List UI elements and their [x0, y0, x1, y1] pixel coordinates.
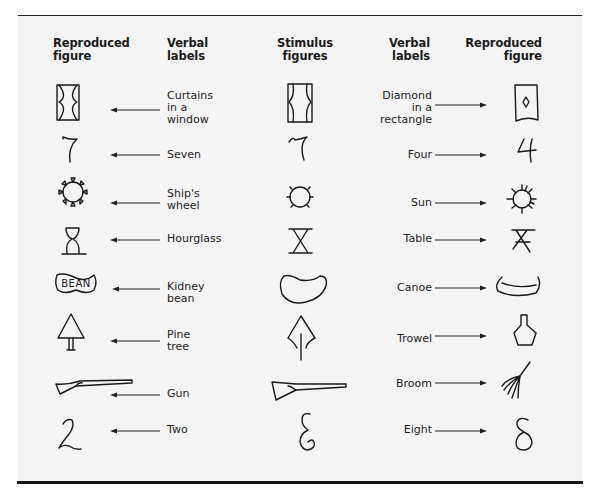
figure-seven: [60, 135, 82, 165]
figure-broom: [498, 360, 534, 404]
label-ships-wheel: Ship's wheel: [167, 188, 200, 212]
top-rule: [18, 15, 582, 16]
arrow-right-icon: [435, 200, 487, 206]
arrow-right-icon: [435, 102, 487, 108]
arrow-right-icon: [435, 285, 487, 291]
label-line: Eight: [370, 424, 432, 436]
label-pine-tree: Pine tree: [167, 329, 190, 353]
arrow-left-icon: [110, 338, 162, 344]
label-gun: Gun: [167, 388, 189, 400]
bean-text: BEAN: [61, 278, 91, 289]
header-left-verbal: Verbal labels: [167, 37, 208, 63]
header-left-reproduced: Reproduced figure: [53, 37, 130, 63]
label-line: Two: [167, 424, 188, 436]
label-diamond-in-rectangle: Diamond in a rectangle: [370, 90, 432, 126]
stimulus-figure-1: [286, 82, 316, 122]
label-canoe: Canoe: [370, 282, 432, 294]
label-table: Table: [370, 233, 432, 245]
header-line: figures: [274, 50, 336, 63]
arrow-right-icon: [435, 333, 487, 339]
stimulus-figure-2: [287, 134, 311, 164]
label-line: Table: [370, 233, 432, 245]
header-line: figure: [53, 50, 130, 63]
figure-two: [57, 416, 83, 452]
label-line: Canoe: [370, 282, 432, 294]
figure-ships-wheel: [55, 174, 91, 210]
label-line: Trowel: [370, 333, 432, 345]
stimulus-figure-3: [285, 182, 315, 212]
header-line: figure: [460, 50, 542, 63]
header-line: labels: [167, 50, 208, 63]
header-right-reproduced: Reproduced figure: [460, 37, 542, 63]
label-trowel: Trowel: [370, 333, 432, 345]
arrow-left-icon: [110, 392, 162, 398]
figure-table: [510, 228, 538, 256]
figure-kidney-bean: BEAN: [52, 270, 100, 298]
label-line: Gun: [167, 388, 189, 400]
label-sun: Sun: [370, 197, 432, 209]
arrow-left-icon: [110, 237, 162, 243]
stimulus-figure-8: [296, 410, 320, 452]
label-curtains-in-window: Curtains in a window: [167, 90, 213, 126]
header-right-verbal: Verbal labels: [380, 37, 430, 63]
arrow-left-icon: [110, 107, 162, 113]
figure-four: [516, 136, 538, 166]
figure-pine-tree: [55, 312, 87, 352]
stimulus-figure-7: [268, 378, 350, 404]
label-line: tree: [167, 341, 190, 353]
label-line: Four: [370, 149, 432, 161]
arrow-right-icon: [435, 152, 487, 158]
arrow-left-icon: [110, 200, 162, 206]
header-stimulus: Stimulus figures: [274, 37, 336, 63]
arrow-left-icon: [112, 286, 162, 292]
figure-canoe: [494, 275, 544, 301]
label-seven: Seven: [167, 149, 201, 161]
arrow-right-icon: [435, 428, 487, 434]
label-two: Two: [167, 424, 188, 436]
figure-eight: [512, 416, 536, 452]
figure-sun: [502, 179, 542, 219]
label-kidney-bean: Kidney bean: [167, 281, 205, 305]
stimulus-figure-5: [276, 272, 332, 308]
figure-diamond-in-rectangle: [513, 83, 543, 123]
label-line: Hourglass: [167, 233, 222, 245]
label-line: Sun: [370, 197, 432, 209]
label-eight: Eight: [370, 424, 432, 436]
arrow-left-icon: [110, 428, 162, 434]
label-line: window: [167, 114, 213, 126]
stimulus-figure-4: [287, 226, 315, 256]
bottom-rule: [17, 481, 583, 484]
label-four: Four: [370, 149, 432, 161]
label-line: Broom: [370, 378, 432, 390]
stimulus-figure-6: [285, 314, 319, 364]
figure-curtains-in-window: [55, 83, 85, 123]
label-line: Seven: [167, 149, 201, 161]
arrow-right-icon: [435, 380, 487, 386]
figure-trowel: [510, 313, 540, 349]
figure-hourglass: [60, 225, 90, 257]
arrow-left-icon: [110, 152, 162, 158]
arrow-right-icon: [435, 237, 487, 243]
label-line: wheel: [167, 200, 200, 212]
label-hourglass: Hourglass: [167, 233, 222, 245]
label-line: bean: [167, 293, 205, 305]
label-line: rectangle: [370, 114, 432, 126]
header-line: labels: [380, 50, 430, 63]
label-broom: Broom: [370, 378, 432, 390]
